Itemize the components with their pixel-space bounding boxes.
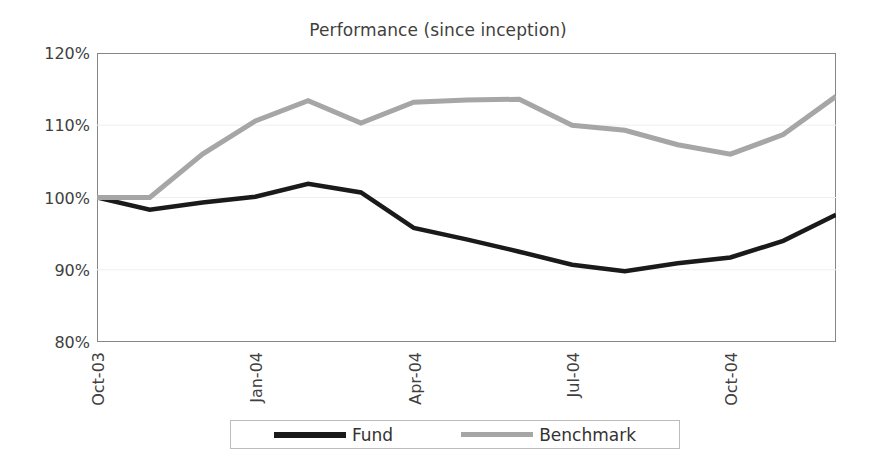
series-line-benchmark — [97, 96, 836, 197]
legend-label-benchmark: Benchmark — [539, 425, 636, 445]
legend-entry-fund: Fund — [274, 425, 393, 445]
plot-area — [97, 53, 836, 342]
performance-chart: Performance (since inception) 80%90%100%… — [0, 0, 876, 471]
fund-line-swatch-icon — [274, 432, 346, 438]
legend-entry-benchmark: Benchmark — [461, 425, 636, 445]
series-line-fund — [97, 184, 836, 271]
benchmark-line-swatch-icon — [461, 432, 533, 437]
legend-label-fund: Fund — [352, 425, 393, 445]
plot-lines — [97, 53, 836, 342]
chart-legend: Fund Benchmark — [230, 420, 680, 449]
